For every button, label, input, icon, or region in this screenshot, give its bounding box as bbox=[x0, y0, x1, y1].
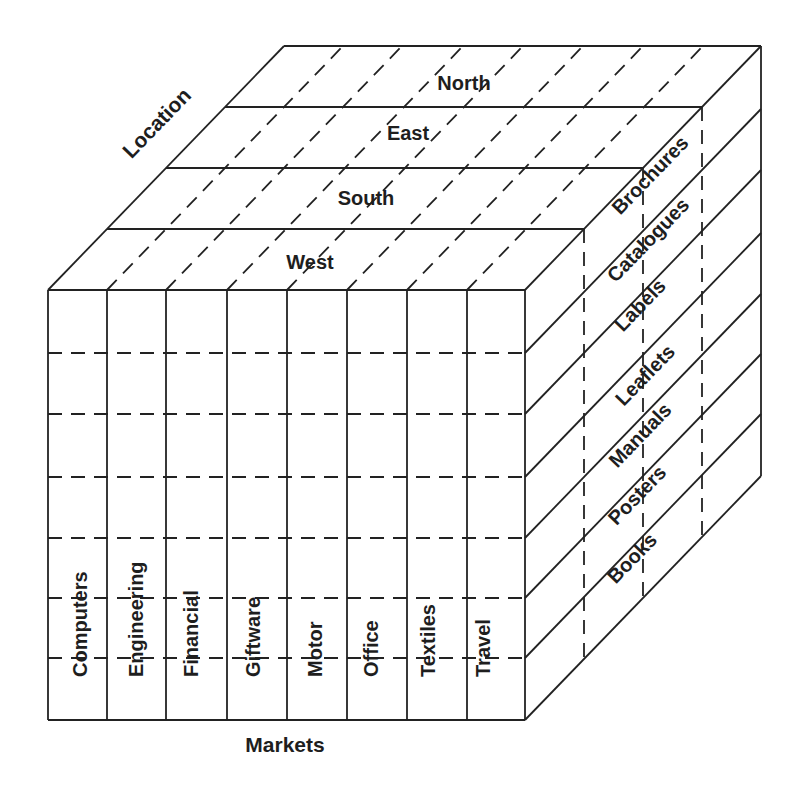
market-label: Textiles bbox=[417, 604, 439, 677]
location-member-label: West bbox=[286, 251, 334, 273]
product-labels: BrochuresCataloguesLabelsLeafletsManuals… bbox=[603, 131, 694, 587]
product-label: Leaflets bbox=[611, 340, 679, 410]
market-label: Financial bbox=[180, 590, 202, 677]
market-label: Computers bbox=[69, 571, 91, 677]
market-label: Giftware bbox=[242, 597, 264, 677]
market-label: Motor bbox=[304, 621, 326, 677]
right-bottom-edge bbox=[525, 476, 761, 720]
market-labels: ComputersEngineeringFinancialGiftwareMot… bbox=[69, 561, 494, 677]
front-face-grid bbox=[48, 290, 525, 720]
market-label: Office bbox=[360, 620, 382, 677]
market-label: Travel bbox=[472, 619, 494, 677]
location-member-label: East bbox=[387, 122, 430, 144]
product-label: Books bbox=[603, 528, 661, 587]
market-label: Engineering bbox=[125, 561, 147, 677]
product-label: Manuals bbox=[604, 399, 675, 472]
location-member-label: South bbox=[338, 187, 395, 209]
location-member-label: North bbox=[437, 72, 490, 94]
markets-axis-label: Markets bbox=[245, 733, 324, 756]
data-cube-diagram: ComputersEngineeringFinancialGiftwareMot… bbox=[0, 0, 807, 799]
